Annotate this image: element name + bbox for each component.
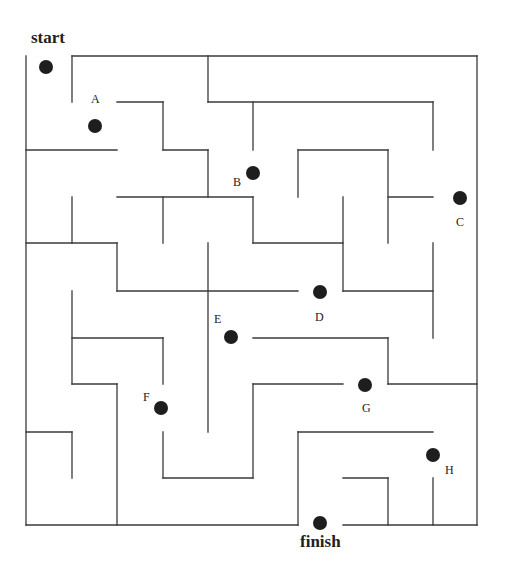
checkpoint-dot-start bbox=[39, 60, 53, 74]
checkpoint-dot-E bbox=[224, 330, 238, 344]
checkpoint-label-F: F bbox=[143, 390, 150, 405]
checkpoint-label-A: A bbox=[91, 92, 100, 107]
checkpoint-label-B: B bbox=[233, 175, 241, 190]
checkpoint-dot-D bbox=[313, 285, 327, 299]
start-label: start bbox=[31, 28, 65, 48]
checkpoint-dot-G bbox=[358, 378, 372, 392]
checkpoint-dot-A bbox=[88, 119, 102, 133]
checkpoint-dot-B bbox=[246, 166, 260, 180]
checkpoint-dot-H bbox=[426, 448, 440, 462]
maze-diagram bbox=[0, 0, 507, 575]
checkpoint-dot-finish bbox=[313, 516, 327, 530]
checkpoint-label-D: D bbox=[315, 310, 324, 325]
finish-label: finish bbox=[300, 532, 341, 552]
checkpoint-label-H: H bbox=[445, 463, 454, 478]
checkpoint-dot-C bbox=[453, 191, 467, 205]
checkpoint-label-E: E bbox=[214, 312, 221, 327]
checkpoint-label-C: C bbox=[456, 215, 464, 230]
checkpoint-label-G: G bbox=[362, 401, 371, 416]
checkpoint-dot-F bbox=[154, 401, 168, 415]
